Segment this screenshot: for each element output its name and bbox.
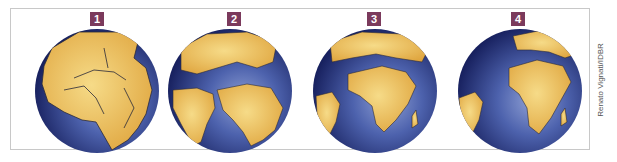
image-credit: Renato Vignati/IDBR: [596, 43, 605, 117]
globe-pangaea: [34, 28, 160, 154]
panel-label-3: 3: [367, 12, 381, 26]
globe-atlantic-opening: [312, 28, 438, 154]
panel-label-2: 2: [227, 12, 241, 26]
panel-label-1: 1: [90, 12, 104, 26]
globe-early-breakup: [167, 28, 293, 154]
panel-label-4: 4: [511, 12, 525, 26]
globe-present-day: [457, 28, 583, 154]
